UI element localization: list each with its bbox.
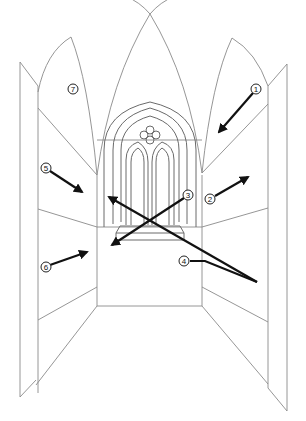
left-wall [20,62,97,397]
svg-text:5: 5 [44,164,49,173]
arrow-2 [215,177,248,196]
svg-text:6: 6 [44,263,49,272]
svg-text:2: 2 [208,195,213,204]
callout-3: 3 [183,190,193,200]
callout-4: 4 [179,256,189,266]
callout-1: 1 [251,84,261,94]
right-wall [202,64,287,411]
arrows [50,93,257,282]
svg-text:4: 4 [182,257,187,266]
arrow-6 [50,252,87,265]
callout-5: 5 [41,163,51,173]
callout-7: 7 [68,84,78,94]
svg-text:1: 1 [254,85,259,94]
arrow-5 [50,171,82,192]
callout-2: 2 [205,194,215,204]
gothic-bay-diagram: 1 2 3 4 5 6 7 [0,0,306,421]
quatrefoil-tracery [140,126,160,144]
architectural-drawing: 1 2 3 4 5 6 7 [0,0,306,421]
callout-6: 6 [41,262,51,272]
arrow-1 [219,93,253,132]
arrow-4b [190,261,257,282]
svg-text:7: 7 [71,85,76,94]
svg-text:3: 3 [186,191,191,200]
